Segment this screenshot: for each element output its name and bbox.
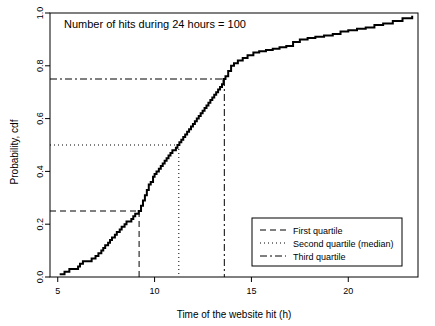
legend-label-0: First quartile (293, 226, 343, 236)
y-tick-label: 0.2 (35, 218, 45, 231)
y-tick-label: 0.0 (35, 271, 45, 284)
plot-canvas: 5101520 0.00.20.40.60.81.0 First quartil… (0, 0, 435, 326)
ecdf-chart-figure: 5101520 0.00.20.40.60.81.0 First quartil… (0, 0, 435, 326)
x-tick-label: 10 (150, 286, 160, 296)
legend-label-2: Third quartile (293, 252, 346, 262)
y-tick-label: 1.0 (35, 7, 45, 20)
y-axis-title: Probability, cdf (9, 119, 20, 184)
x-tick-label: 20 (343, 286, 353, 296)
legend-label-1: Second quartile (median) (293, 239, 394, 249)
y-tick-label: 0.8 (35, 60, 45, 73)
x-tick-label: 5 (55, 286, 60, 296)
x-tick-label: 15 (246, 286, 256, 296)
y-tick-label: 0.4 (35, 165, 45, 178)
y-tick-label: 0.6 (35, 112, 45, 125)
legend-box: First quartileSecond quartile (median)Th… (252, 218, 402, 266)
chart-title: Number of hits during 24 hours = 100 (64, 18, 246, 30)
x-axis-title: Time of the website hit (h) (177, 309, 292, 320)
